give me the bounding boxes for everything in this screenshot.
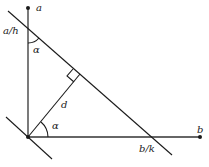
lattice-plane-diagram: a b a/h b/k d α α [0, 0, 209, 167]
label-alpha-origin: α [52, 120, 59, 131]
label-alpha-top: α [33, 44, 40, 55]
label-d: d [61, 99, 67, 110]
point-a-dot [26, 6, 30, 10]
parallel-line-through-origin [6, 117, 52, 159]
label-b-over-k: b/k [139, 143, 155, 154]
right-angle-marker [67, 69, 74, 82]
label-a: a [36, 2, 42, 13]
label-b: b [197, 124, 203, 135]
angle-arc-origin [41, 122, 48, 137]
plane-trace-line [8, 11, 172, 155]
angle-arc-top [28, 38, 39, 43]
label-a-over-h: a/h [3, 25, 19, 36]
point-b-dot [198, 135, 202, 139]
